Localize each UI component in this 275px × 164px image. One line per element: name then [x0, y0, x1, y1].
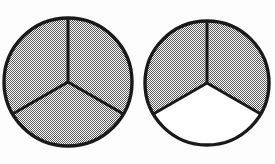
- left-circle: [4, 18, 132, 146]
- figure-container: Two circles divided into thirds Left cir…: [0, 0, 275, 164]
- right-circle: [145, 21, 269, 145]
- fraction-circles-svg: [0, 0, 275, 164]
